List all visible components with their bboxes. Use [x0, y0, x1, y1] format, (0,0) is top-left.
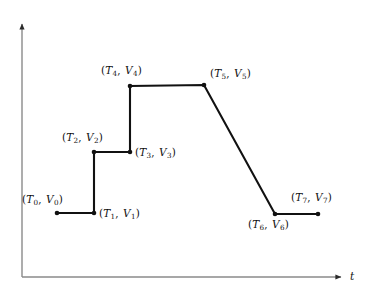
- vertex-marker-4: [128, 84, 133, 89]
- chart-figure: (T0, V0) (T1, V1) (T2, V2) (T3, V3) (T4,…: [0, 0, 373, 295]
- vertex-marker-3: [128, 150, 133, 155]
- vertex-marker-0: [55, 211, 60, 216]
- vertex-marker-2: [92, 150, 97, 155]
- point-label-1: (T1, V1): [99, 208, 140, 220]
- plot-canvas: [0, 0, 373, 295]
- point-label-0: (T0, V0): [22, 194, 63, 206]
- point-label-7: (T7, V7): [291, 192, 332, 204]
- waveform-line: [57, 85, 318, 214]
- point-label-5: (T5, V5): [210, 68, 251, 80]
- point-label-4: (T4, V4): [101, 65, 142, 77]
- point-label-3: (T3, V3): [135, 147, 176, 159]
- point-label-6: (T6, V6): [248, 219, 289, 231]
- vertex-marker-5: [202, 83, 207, 88]
- vertex-marker-1: [92, 211, 97, 216]
- x-axis-label: t: [350, 271, 354, 282]
- vertex-marker-7: [316, 212, 321, 217]
- axes-group: [22, 24, 341, 277]
- vertex-marker-6: [273, 212, 278, 217]
- point-label-2: (T2, V2): [62, 132, 103, 144]
